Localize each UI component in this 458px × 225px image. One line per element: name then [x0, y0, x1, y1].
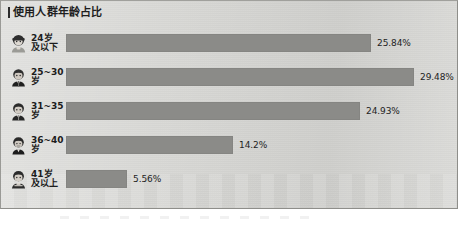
page-bottom-margin — [0, 209, 458, 225]
page-title: 使用人群年龄占比 — [8, 6, 103, 19]
chart-title-text: 使用人群年龄占比 — [13, 6, 103, 19]
value-label: 29.48% — [420, 72, 454, 82]
value-bar — [66, 102, 360, 120]
category-label: 24岁 及以下 — [31, 34, 66, 53]
value-bar — [66, 136, 233, 154]
title-marker-icon — [8, 7, 10, 18]
avatar-female-young-icon — [9, 34, 28, 53]
category-label: 41岁 及以上 — [31, 170, 66, 189]
scan-streak-artifact — [60, 216, 320, 219]
age-distribution-chart-panel: 使用人群年龄占比 24岁 及以下 — [0, 0, 458, 209]
scanned-page: 使用人群年龄占比 24岁 及以下 — [0, 0, 458, 225]
value-label: 25.84% — [377, 38, 411, 48]
value-label: 5.56% — [133, 174, 161, 184]
avatar-male-tie-icon — [9, 102, 28, 121]
avatar-elder-icon — [9, 170, 28, 189]
bar-row: 31~35岁 24.93% — [1, 94, 458, 128]
avatar-male-dark-icon — [9, 136, 28, 155]
value-bar — [66, 68, 414, 86]
bar-row: 24岁 及以下 25.84% — [1, 26, 458, 60]
category-label: 36~40岁 — [31, 136, 66, 155]
bar-row: 25~30岁 29.48% — [1, 60, 458, 94]
bar-area: 29.48% — [66, 60, 458, 94]
bar-area: 14.2% — [66, 128, 458, 162]
bar-area: 25.84% — [66, 26, 458, 60]
bar-area: 24.93% — [66, 94, 458, 128]
value-label: 24.93% — [366, 106, 400, 116]
avatar-male-suit-icon — [9, 68, 28, 87]
bar-row: 36~40岁 14.2% — [1, 128, 458, 162]
value-bar — [66, 34, 371, 52]
value-bar — [66, 170, 127, 188]
bar-chart-rows: 24岁 及以下 25.84% — [1, 26, 458, 196]
category-label: 31~35岁 — [31, 102, 66, 121]
bar-area: 5.56% — [66, 162, 458, 196]
bar-row: 41岁 及以上 5.56% — [1, 162, 458, 196]
value-label: 14.2% — [239, 140, 267, 150]
category-label: 25~30岁 — [31, 68, 66, 87]
